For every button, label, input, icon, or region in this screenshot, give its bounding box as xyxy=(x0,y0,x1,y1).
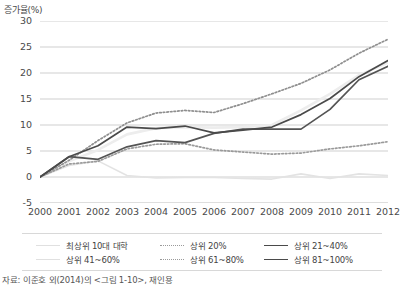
x-tick-label: 2012 xyxy=(371,207,404,217)
legend-item[interactable]: 최상위 10대 대학 xyxy=(22,238,160,252)
legend-label: 상위 20% xyxy=(190,239,226,251)
legend-item[interactable]: 상위 81~100% xyxy=(264,252,382,266)
data-series-line xyxy=(40,161,388,179)
legend-swatch-icon xyxy=(160,255,184,264)
legend-label: 상위 41~60% xyxy=(66,253,120,265)
y-tick-label: 0 xyxy=(6,172,32,182)
plot-area xyxy=(40,21,388,203)
source-note: 자료: 이준호 외(2014)의 <그림 1-10>, 재인용 xyxy=(2,273,173,285)
legend-swatch-icon xyxy=(36,255,60,264)
legend-row: 상위 41~60%상위 61~80%상위 81~100% xyxy=(22,252,382,266)
y-tick-label: 20 xyxy=(6,68,32,78)
legend-item[interactable]: 상위 20% xyxy=(160,238,264,252)
line-chart-canvas xyxy=(40,21,388,203)
y-tick-label: 10 xyxy=(6,120,32,130)
data-series-line xyxy=(40,66,388,177)
legend-label: 상위 61~80% xyxy=(190,253,244,265)
legend-item[interactable]: 상위 41~60% xyxy=(22,252,160,266)
legend-item[interactable]: 상위 61~80% xyxy=(160,252,264,266)
data-series-line xyxy=(40,39,388,177)
legend-swatch-icon xyxy=(160,241,184,250)
y-tick-label: 25 xyxy=(6,42,32,52)
y-tick-label: 5 xyxy=(6,146,32,156)
chart-legend: 최상위 10대 대학상위 20%상위 21~40% 상위 41~60%상위 61… xyxy=(22,233,382,271)
legend-swatch-icon xyxy=(36,241,60,250)
y-tick-label: 15 xyxy=(6,94,32,104)
legend-row: 최상위 10대 대학상위 20%상위 21~40% xyxy=(22,238,382,252)
legend-label: 상위 81~100% xyxy=(294,253,353,265)
legend-swatch-icon xyxy=(264,255,288,264)
data-series-line xyxy=(40,63,388,177)
legend-label: 상위 21~40% xyxy=(294,239,348,251)
legend-swatch-icon xyxy=(264,241,288,250)
legend-item[interactable]: 상위 21~40% xyxy=(264,238,382,252)
legend-label: 최상위 10대 대학 xyxy=(66,239,128,251)
y-tick-label: 30 xyxy=(6,16,32,26)
